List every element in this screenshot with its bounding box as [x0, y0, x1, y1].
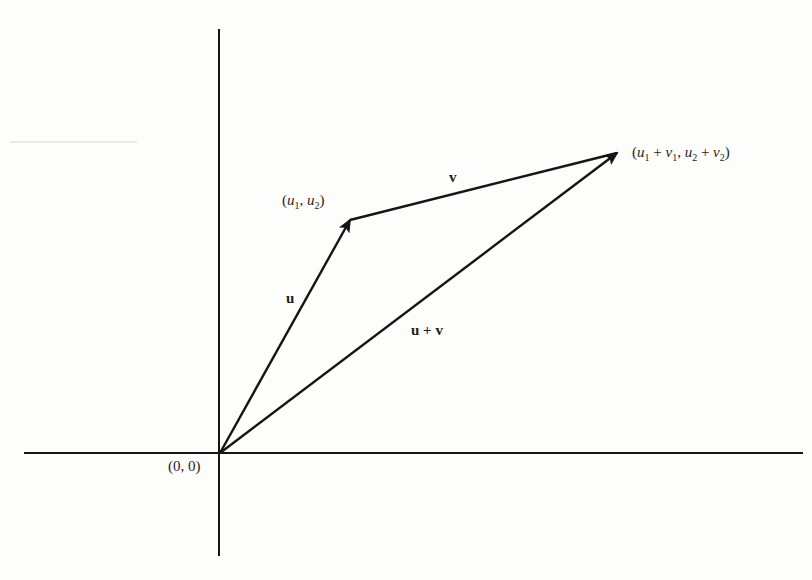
u1-symbol: u	[637, 144, 645, 160]
paren-close: )	[725, 144, 730, 160]
vector-u-label: u	[286, 291, 294, 306]
u2-symbol: u	[307, 192, 315, 208]
point-sum-label: (u1 + v1, u2 + v2)	[632, 145, 730, 160]
vector-sum-arrow	[220, 153, 617, 453]
comma: ,	[300, 192, 308, 208]
point-u-label: (u1, u2)	[282, 193, 325, 208]
vector-addition-diagram	[0, 0, 812, 580]
vector-v-label: v	[449, 170, 457, 185]
vector-sum-label: u + v	[411, 323, 443, 338]
v2-symbol: v	[713, 144, 720, 160]
plus-sign: +	[650, 144, 666, 160]
paren-close: )	[320, 192, 325, 208]
comma: ,	[677, 144, 685, 160]
origin-label: (0, 0)	[168, 459, 201, 474]
u1-symbol: u	[287, 192, 295, 208]
vector-v-line	[350, 153, 617, 220]
vector-u-arrow	[220, 220, 350, 453]
plus-sign: +	[697, 144, 713, 160]
